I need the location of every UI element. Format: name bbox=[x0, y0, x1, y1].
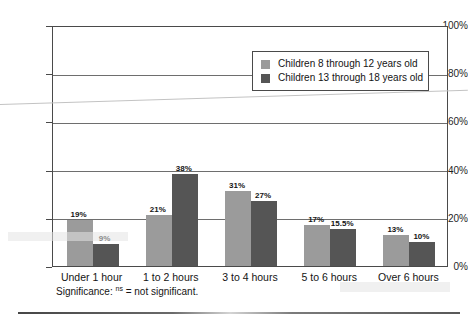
bar-value-label: 31% bbox=[217, 181, 257, 190]
bar-value-label: 38% bbox=[164, 164, 204, 173]
bar-value-label: 9% bbox=[85, 234, 125, 243]
bar-value-label: 27% bbox=[243, 191, 283, 200]
gridline bbox=[53, 123, 447, 124]
y-tick-mark bbox=[46, 267, 52, 268]
bar-value-label: 15.5% bbox=[322, 219, 362, 228]
category-label: 5 to 6 hours bbox=[284, 271, 375, 283]
bar bbox=[146, 215, 172, 266]
category-label: 3 to 4 hours bbox=[204, 271, 295, 283]
bar-value-label: 10% bbox=[401, 232, 441, 241]
bar bbox=[409, 242, 435, 266]
category-label: 1 to 2 hours bbox=[125, 271, 216, 283]
legend-swatch-icon-light bbox=[261, 60, 270, 69]
legend-label-children-8-12: Children 8 through 12 years old bbox=[278, 58, 418, 70]
bar bbox=[93, 244, 119, 266]
bar bbox=[251, 201, 277, 266]
category-label: Over 6 hours bbox=[363, 271, 454, 283]
bar bbox=[172, 174, 198, 266]
scan-artifact-bottom-rule bbox=[18, 312, 460, 314]
legend-item-children-8-12: Children 8 through 12 years old bbox=[261, 57, 422, 71]
bar-value-label: 21% bbox=[138, 205, 178, 214]
bar bbox=[330, 229, 356, 266]
category-label: Under 1 hour bbox=[46, 271, 137, 283]
legend-swatch-icon-dark bbox=[261, 74, 270, 83]
gridline bbox=[53, 171, 447, 172]
footnote-marker: ns bbox=[115, 285, 122, 292]
significance-footnote: Significance: ns = not significant. bbox=[56, 286, 198, 298]
chart-figure: 0%20%40%60%80%100% 19%9%21%38%31%27%17%1… bbox=[0, 0, 468, 322]
legend-label-children-13-18: Children 13 through 18 years old bbox=[278, 72, 423, 84]
footnote-prefix: Significance: bbox=[56, 286, 115, 297]
footnote-suffix: = not significant. bbox=[123, 286, 198, 297]
bar bbox=[304, 225, 330, 266]
bar-value-label: 19% bbox=[59, 210, 99, 219]
scan-artifact-smudge-right bbox=[340, 282, 450, 292]
chart-legend: Children 8 through 12 years old Children… bbox=[252, 51, 429, 91]
bar bbox=[225, 191, 251, 266]
legend-item-children-13-18: Children 13 through 18 years old bbox=[261, 71, 422, 85]
